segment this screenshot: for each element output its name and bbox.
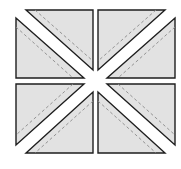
block-bottom-left	[16, 84, 93, 153]
block-bottom-right	[98, 84, 175, 153]
quilt-diagram	[0, 0, 181, 169]
seam-lines	[16, 10, 175, 153]
block-top-left	[16, 10, 93, 78]
block-top-right	[98, 10, 175, 78]
